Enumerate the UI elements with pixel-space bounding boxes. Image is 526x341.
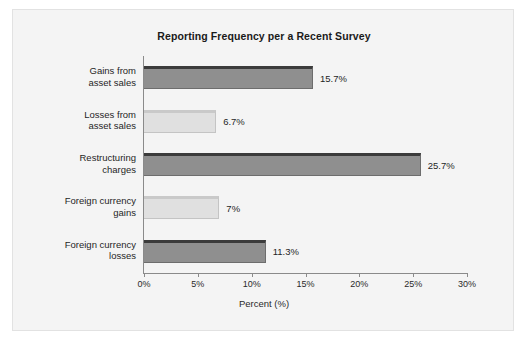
y-axis-category-label: Restructuring charges [80,152,137,175]
x-tick [144,273,145,277]
bar[interactable] [144,153,421,176]
x-tick [413,273,414,277]
x-axis-title: Percent (%) [13,298,515,309]
bar-row: 7% [144,196,467,219]
x-tick [198,273,199,277]
bar-row: 25.7% [144,153,467,176]
bar[interactable] [144,66,313,89]
x-tick [252,273,253,277]
bar-row: 6.7% [144,110,467,133]
chart-title: Reporting Frequency per a Recent Survey [13,30,515,42]
y-axis-category-label: Losses from asset sales [84,109,136,132]
bar[interactable] [144,110,216,133]
bar-value-label: 6.7% [223,116,245,127]
x-tick [467,273,468,277]
y-axis-category-label: Foreign currency losses [65,239,136,262]
y-axis-category-labels: Gains from asset salesLosses from asset … [13,56,144,273]
x-tick-label: 5% [178,279,218,289]
x-tick [306,273,307,277]
bar[interactable] [144,196,219,219]
bar-row: 11.3% [144,240,467,263]
bar-row: 15.7% [144,66,467,89]
x-tick-label: 30% [447,279,487,289]
x-tick [359,273,360,277]
bar-value-label: 7% [226,202,240,213]
x-tick-label: 15% [286,279,326,289]
chart-figure: Reporting Frequency per a Recent Survey … [12,9,514,331]
x-tick-label: 25% [393,279,433,289]
x-tick-label: 20% [339,279,379,289]
bar[interactable] [144,240,266,263]
plot-area: 0%5%10%15%20%25%30% 15.7%6.7%25.7%7%11.3… [144,56,467,273]
x-tick-label: 10% [232,279,272,289]
y-axis-category-label: Foreign currency gains [65,195,136,218]
bar-value-label: 25.7% [428,159,455,170]
x-tick-label: 0% [124,279,164,289]
bar-value-label: 11.3% [273,246,299,257]
y-axis-category-label: Gains from asset sales [88,65,136,88]
bar-value-label: 15.7% [320,72,347,83]
